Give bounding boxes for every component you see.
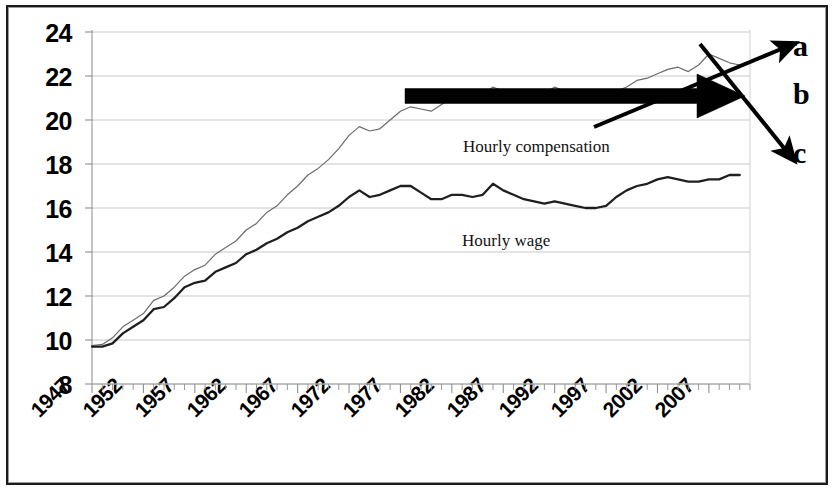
chart-screenshot: 24 22 20 18 16 14 12 10 8 1947 1952 1957… — [0, 0, 836, 495]
y-axis-ticks-group — [85, 32, 92, 384]
series-line-hourly-wage — [92, 175, 740, 347]
annotation-arrow-b — [405, 74, 745, 118]
x-axis-ticks-group — [92, 384, 750, 393]
axes-group — [92, 30, 750, 384]
gridlines-group — [92, 32, 750, 384]
annotation-arrows-group — [405, 44, 788, 153]
chart-plot-svg — [0, 0, 836, 495]
